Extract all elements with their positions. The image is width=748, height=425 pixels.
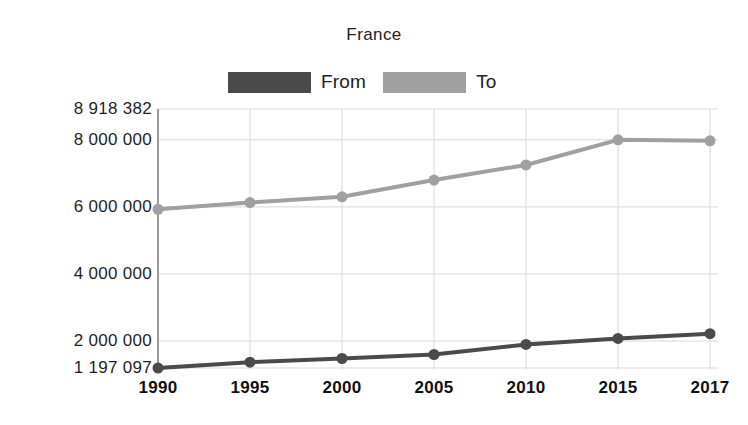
y-axis-tick-label: 1 197 097 [12, 358, 152, 378]
y-axis-tick-label: 2 000 000 [12, 331, 152, 351]
x-axis-tick-label: 2010 [506, 378, 545, 398]
data-point-from-2017 [705, 328, 716, 339]
x-axis-tick-label: 2005 [414, 378, 453, 398]
data-point-from-2010 [521, 339, 532, 350]
x-axis-tick-label: 2017 [690, 378, 729, 398]
y-axis-tick-label: 4 000 000 [12, 264, 152, 284]
data-point-to-1990 [153, 204, 164, 215]
plot-svg [146, 97, 730, 380]
data-point-to-2010 [521, 159, 532, 170]
data-point-from-2005 [429, 349, 440, 360]
data-point-to-2017 [705, 135, 716, 146]
x-axis-tick-label: 2015 [598, 378, 637, 398]
x-axis-labels: 1990199520002005201020152017 [0, 378, 748, 404]
legend-entry-to: To [383, 71, 496, 93]
data-point-from-1990 [153, 363, 164, 374]
y-axis-tick-label: 8 000 000 [12, 130, 152, 150]
legend-entry-from: From [228, 71, 366, 93]
data-point-from-2000 [337, 353, 348, 364]
data-point-to-1995 [245, 197, 256, 208]
y-axis-tick-label: 6 000 000 [12, 197, 152, 217]
y-axis-labels: 8 918 3828 000 0006 000 0004 000 0002 00… [8, 0, 152, 425]
data-point-to-2005 [429, 175, 440, 186]
chart-legend: From To [228, 71, 497, 93]
data-point-from-2015 [613, 333, 624, 344]
plot-area [158, 109, 718, 368]
legend-label-to: To [476, 71, 496, 93]
x-axis-tick-label: 1995 [230, 378, 269, 398]
y-axis-tick-label: 8 918 382 [12, 99, 152, 119]
data-point-to-2015 [613, 134, 624, 145]
data-point-from-1995 [245, 357, 256, 368]
legend-swatch-from [228, 72, 311, 93]
chart-container: France From To 8 918 3828 000 0006 000 0… [0, 0, 748, 425]
legend-swatch-to [383, 72, 466, 93]
data-point-to-2000 [337, 191, 348, 202]
x-axis-tick-label: 2000 [322, 378, 361, 398]
x-axis-tick-label: 1990 [138, 378, 177, 398]
legend-label-from: From [321, 71, 366, 93]
